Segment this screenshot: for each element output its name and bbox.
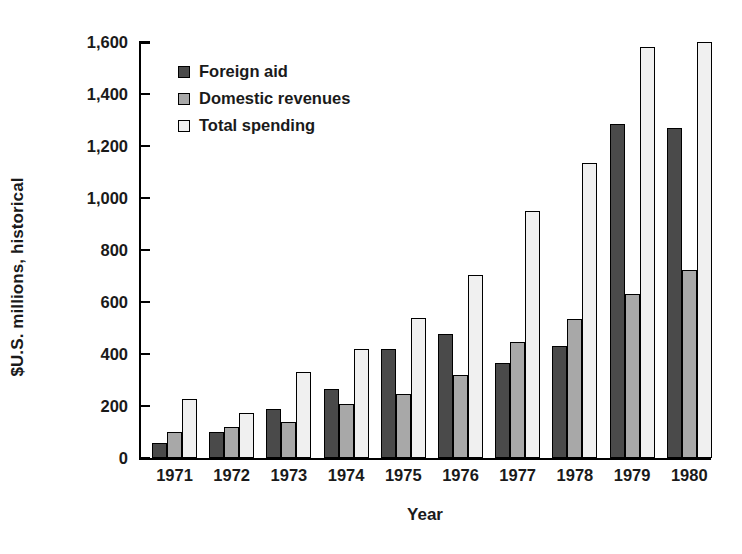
y-axis-tick-label: 1,000	[28, 189, 128, 208]
legend-item: Domestic revenues	[178, 85, 408, 112]
bar	[453, 375, 468, 458]
bar	[324, 389, 339, 458]
bar	[567, 319, 582, 458]
bar	[640, 47, 655, 458]
bar	[625, 294, 640, 458]
bar	[552, 346, 567, 458]
bar	[525, 211, 540, 458]
bar	[682, 270, 697, 459]
y-axis-tick-label: 600	[28, 293, 128, 312]
bar	[239, 413, 254, 459]
y-axis-tick-label: 800	[28, 241, 128, 260]
bar-group	[610, 42, 655, 458]
legend-swatch-icon	[178, 120, 190, 132]
bar	[438, 334, 453, 458]
bar	[281, 422, 296, 458]
bar	[339, 404, 354, 458]
bar	[182, 399, 197, 458]
bar	[697, 42, 712, 458]
legend-label: Total spending	[199, 116, 315, 135]
bar	[209, 432, 224, 458]
y-axis-tick-label: 200	[28, 397, 128, 416]
bar	[582, 163, 597, 458]
bar	[667, 128, 682, 458]
bar	[396, 394, 411, 458]
bar	[152, 443, 167, 458]
bar	[411, 318, 426, 458]
y-axis-tick-label: 400	[28, 345, 128, 364]
legend-swatch-icon	[178, 93, 190, 105]
bar-group	[667, 42, 712, 458]
bar	[610, 124, 625, 458]
legend-label: Foreign aid	[199, 62, 288, 81]
bar	[381, 349, 396, 458]
bar	[510, 342, 525, 458]
legend-swatch-icon	[178, 66, 190, 78]
bar	[224, 427, 239, 458]
legend: Foreign aidDomestic revenuesTotal spendi…	[178, 58, 408, 139]
x-axis-title: Year	[139, 505, 711, 525]
legend-label: Domestic revenues	[199, 89, 350, 108]
bar	[266, 409, 281, 458]
bar-group	[552, 42, 597, 458]
bar-group	[438, 42, 483, 458]
bar	[167, 432, 182, 458]
bar-group	[495, 42, 540, 458]
y-axis-tick-label: 0	[28, 449, 128, 468]
legend-item: Foreign aid	[178, 58, 408, 85]
legend-item: Total spending	[178, 112, 408, 139]
bar-chart: $U.S. millions, historical 0200400600800…	[0, 0, 742, 554]
bar	[296, 372, 311, 458]
y-axis-tick-label: 1,400	[28, 85, 128, 104]
bar	[468, 275, 483, 458]
y-axis-tick-label: 1,600	[28, 33, 128, 52]
x-axis-tick-label: 1980	[649, 466, 729, 485]
bar	[354, 349, 369, 458]
y-axis-tick-label: 1,200	[28, 137, 128, 156]
bar	[495, 363, 510, 458]
